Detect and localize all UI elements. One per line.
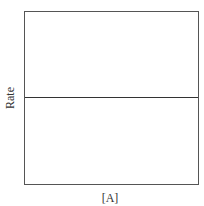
rate-line	[25, 97, 198, 98]
x-axis-label: [A]	[102, 191, 119, 206]
y-axis-label: Rate	[3, 87, 18, 109]
plot-area	[24, 11, 199, 185]
